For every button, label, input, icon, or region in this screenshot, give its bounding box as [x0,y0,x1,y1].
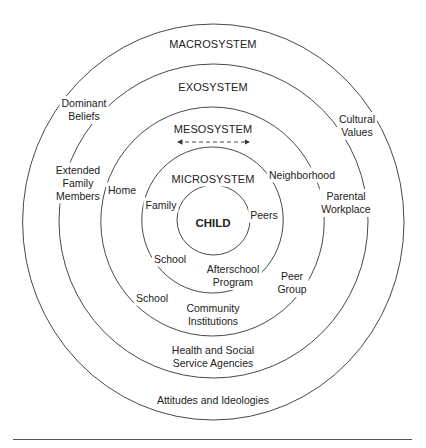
label-exosystem: EXOSYSTEM [176,80,249,95]
label-school-outer: School [134,291,170,306]
label-parental-workplace: Parental Workplace [319,189,372,217]
label-macrosystem: MACROSYSTEM [167,37,258,52]
label-mesosystem: MESOSYSTEM [172,122,255,137]
label-child: CHILD [193,216,232,231]
label-peer-group: Peer Group [275,269,308,297]
label-neighborhood: Neighborhood [267,168,337,183]
label-attitudes-ideologies: Attitudes and Ideologies [155,393,271,408]
label-health-social-service: Health and Social Service Agencies [170,343,256,371]
label-microsystem: MICROSYSTEM [170,172,257,187]
label-community-institutions: Community Institutions [184,301,241,329]
label-home: Home [106,183,138,198]
label-dominant-beliefs: Dominant Beliefs [60,96,109,124]
label-school-inner: School [152,252,188,267]
bottom-rule-divider [13,439,412,440]
label-family: Family [144,198,179,213]
ecological-systems-diagram: MACROSYSTEM EXOSYSTEM MESOSYSTEM MICROSY… [0,0,426,448]
label-afterschool-program: Afterschool Program [205,262,262,290]
label-extended-family-members: Extended Family Members [54,163,102,204]
label-peers: Peers [248,208,279,223]
label-cultural-values: Cultural Values [337,112,377,140]
